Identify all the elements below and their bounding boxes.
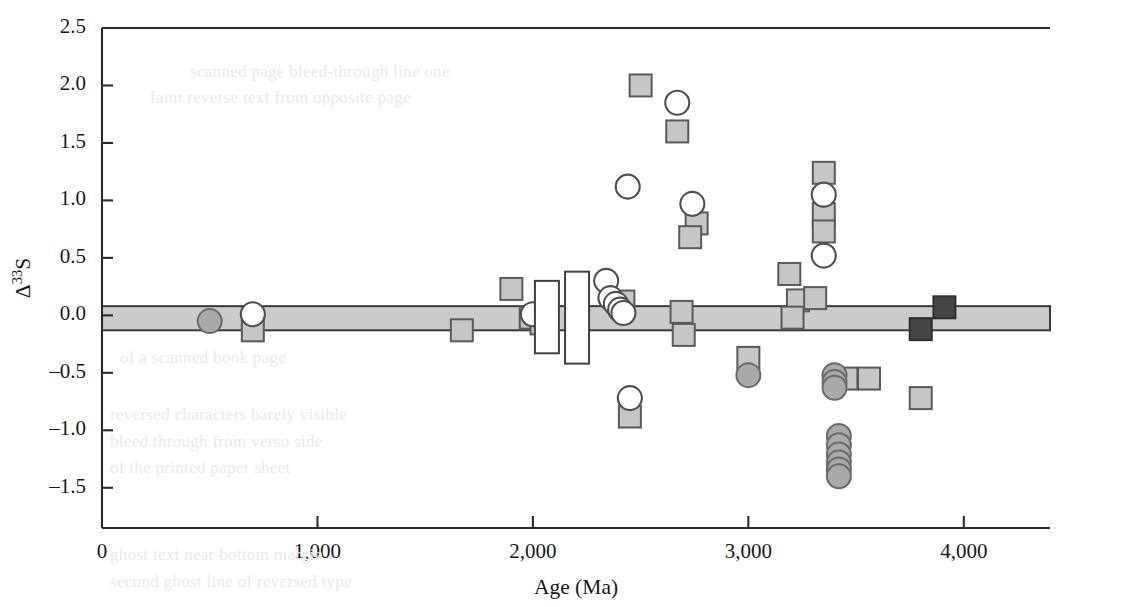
y-tick-label: 1.0	[60, 186, 86, 210]
series-dark-square	[910, 296, 956, 340]
marker-square	[671, 301, 693, 323]
marker-circle	[198, 309, 222, 333]
y-axis: 2.52.01.51.00.50.0–0.5–1.0–1.5	[48, 14, 113, 498]
x-tick-label: 4,000	[940, 539, 987, 563]
marker-square	[910, 318, 932, 340]
marker-circle	[812, 244, 836, 268]
background-ghost-text: ghost text near bottom margin	[110, 545, 323, 565]
marker-circle	[665, 91, 689, 115]
x-tick-label: 2,000	[509, 539, 556, 563]
marker-square	[804, 287, 826, 309]
y-tick-label: 2.5	[60, 14, 86, 38]
marker-square	[813, 220, 835, 242]
y-tick-label: 0.0	[60, 301, 86, 325]
marker-square	[630, 74, 652, 96]
marker-square	[673, 324, 695, 346]
y-tick-label: –1.5	[48, 474, 86, 498]
marker-square	[933, 296, 955, 318]
marker-square	[813, 162, 835, 184]
marker-square	[910, 387, 932, 409]
y-tick-label: 0.5	[60, 244, 86, 268]
x-tick-label: 3,000	[725, 539, 772, 563]
marker-circle	[827, 464, 851, 488]
marker-circle	[812, 183, 836, 207]
marker-circle	[680, 192, 704, 216]
marker-circle	[611, 301, 635, 325]
marker-circle	[736, 363, 760, 387]
y-axis-title: Δ33S	[9, 258, 35, 298]
background-ghost-text: of the printed paper sheet	[110, 458, 291, 478]
marker-square	[500, 278, 522, 300]
background-ghost-text: faint reverse text from opposite page	[150, 88, 411, 108]
marker-circle	[823, 376, 847, 400]
marker-range-box	[535, 281, 559, 353]
background-ghost-text: bleed through from verso side	[110, 432, 323, 452]
marker-square	[858, 368, 880, 390]
y-tick-label: –0.5	[48, 359, 86, 383]
figure-container: 2.52.01.51.00.50.0–0.5–1.0–1.501,0002,00…	[0, 0, 1121, 607]
marker-circle	[616, 175, 640, 199]
x-axis-title: Age (Ma)	[534, 575, 618, 599]
marker-square	[679, 226, 701, 248]
marker-square	[666, 120, 688, 142]
y-tick-label: 2.0	[60, 71, 86, 95]
background-ghost-text: of a scanned book page	[120, 348, 286, 368]
background-ghost-text: scanned page bleed-through line one	[190, 62, 450, 82]
background-ghost-text: reversed characters barely visible	[110, 405, 347, 425]
marker-circle	[241, 302, 265, 326]
series-gray-circle	[198, 309, 851, 488]
y-tick-label: 1.5	[60, 129, 86, 153]
marker-square	[451, 319, 473, 341]
marker-square	[782, 307, 804, 329]
marker-circle	[618, 386, 642, 410]
background-ghost-text: second ghost line of reversed type	[110, 572, 352, 592]
marker-range-box	[565, 272, 589, 364]
marker-square	[778, 263, 800, 285]
x-tick-label: 0	[97, 539, 108, 563]
y-tick-label: –1.0	[48, 416, 86, 440]
